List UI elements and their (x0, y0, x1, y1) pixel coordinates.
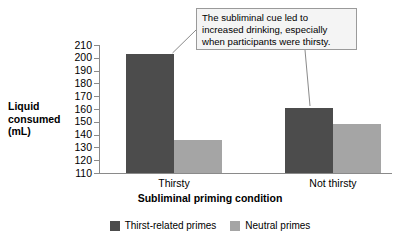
y-axis-tick-label: 180 (30, 77, 92, 89)
y-axis-tick-label: 130 (30, 141, 92, 153)
y-axis-tick-label: 160 (30, 103, 92, 115)
callout-line-3: when participants were thirsty. (202, 36, 351, 48)
callout-annotation: The subliminal cue led to increased drin… (196, 8, 357, 50)
legend-label: Thirst-related primes (125, 220, 217, 231)
legend-swatch-icon (110, 221, 120, 231)
y-axis-tick-label: 190 (30, 64, 92, 76)
legend-label: Neutral primes (245, 220, 310, 231)
y-axis-tick-label: 120 (30, 154, 92, 166)
bar-not-thirsty-neutral (333, 124, 381, 173)
x-axis-label-thirsty: Thirsty (106, 177, 242, 189)
y-axis-tick-label: 210 (30, 39, 92, 51)
bar-chart: Liquid consumed (mL) 2102001901801701601… (0, 0, 420, 247)
x-axis-label-not-thirsty: Not thirsty (265, 177, 401, 189)
y-axis-tick-label: 200 (30, 51, 92, 63)
callout-line-2: increased drinking, especially (202, 24, 351, 36)
legend-item-neutral-primes: Neutral primes (230, 220, 310, 231)
y-axis-tick-label: 170 (30, 90, 92, 102)
y-axis-tick-mark (94, 173, 99, 174)
x-axis-title: Subliminal priming condition (0, 192, 420, 204)
x-axis-line (96, 173, 392, 174)
legend-swatch-icon (230, 221, 240, 231)
y-axis-tick-label: 110 (30, 167, 92, 179)
y-axis-tick-label: 150 (30, 115, 92, 127)
callout-line-1: The subliminal cue led to (202, 12, 351, 24)
y-axis-tick-label: 140 (30, 128, 92, 140)
plot-area (99, 47, 388, 173)
bar-thirsty-thirst-related (126, 54, 174, 173)
bar-thirsty-neutral (174, 140, 222, 173)
chart-legend: Thirst-related primesNeutral primes (0, 220, 420, 231)
y-axis-tick-mark (94, 45, 99, 46)
legend-item-thirst-related-primes: Thirst-related primes (110, 220, 217, 231)
bar-not-thirsty-thirst-related (285, 108, 333, 173)
